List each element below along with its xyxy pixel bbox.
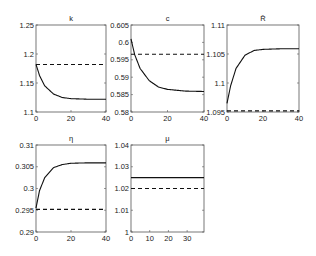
y-tick-label: 1.2 — [24, 50, 34, 59]
x-tick-label: 0 — [129, 234, 133, 243]
x-tick-label: 40 — [102, 114, 110, 123]
y-tick-label: 0.295 — [15, 206, 34, 215]
y-tick-label: 1.105 — [206, 50, 225, 59]
subplot-title: η — [69, 134, 73, 143]
x-tick-label: 0 — [225, 114, 229, 123]
y-tick-label: 0.29 — [19, 228, 34, 237]
y-tick-label: 0.585 — [110, 90, 129, 99]
x-tick-label: 20 — [164, 234, 172, 243]
subplot-1: c0.580.5850.590.5950.60.60502040 — [110, 14, 208, 123]
x-tick-label: 30 — [183, 234, 191, 243]
x-tick-label: 20 — [163, 114, 171, 123]
subplot-0: k1.11.151.21.2502040 — [19, 14, 110, 123]
x-tick-label: 0 — [34, 234, 38, 243]
y-tick-label: 0.58 — [114, 108, 129, 117]
y-tick-label: 1.02 — [114, 184, 129, 193]
subplot-3: η0.290.2950.30.3050.3102040 — [15, 134, 110, 243]
subplot-title: μ — [165, 134, 169, 143]
figure: k1.11.151.21.2502040c0.580.5850.590.5950… — [0, 0, 316, 256]
x-tick-label: 40 — [295, 114, 303, 123]
y-tick-label: 1.25 — [19, 21, 34, 30]
y-tick-label: 0.3 — [24, 184, 34, 193]
subplot-title: R̄ — [260, 14, 266, 23]
x-tick-label: 10 — [146, 234, 154, 243]
y-tick-label: 0.59 — [114, 73, 129, 82]
axes-frame — [36, 145, 106, 232]
subplot-title: c — [166, 14, 170, 23]
x-tick-label: 0 — [34, 114, 38, 123]
subplot-title: k — [69, 14, 73, 23]
y-tick-label: 0.31 — [19, 141, 34, 150]
x-tick-label: 20 — [259, 114, 267, 123]
y-tick-label: 1.1 — [215, 79, 225, 88]
y-tick-label: 0.595 — [110, 55, 129, 64]
x-tick-label: 0 — [129, 114, 133, 123]
y-tick-label: 1.01 — [114, 206, 129, 215]
y-tick-label: 1.15 — [19, 79, 34, 88]
subplot-4: μ11.011.021.031.040102030 — [114, 134, 204, 243]
y-tick-label: 1.04 — [114, 141, 129, 150]
y-tick-label: 1.11 — [211, 21, 225, 30]
y-tick-label: 0.305 — [15, 162, 34, 171]
y-tick-label: 1.1 — [24, 108, 34, 117]
axes-frame — [227, 25, 299, 112]
axes-frame — [131, 25, 204, 112]
subplot-2: R̄1.0951.11.1051.1102040 — [206, 14, 303, 123]
y-tick-label: 0.6 — [119, 38, 129, 47]
x-tick-label: 40 — [102, 234, 110, 243]
y-tick-label: 1.095 — [206, 108, 225, 117]
x-tick-label: 20 — [67, 114, 75, 123]
y-tick-label: 0.605 — [110, 21, 129, 30]
x-tick-label: 20 — [67, 234, 75, 243]
y-tick-label: 1.03 — [114, 162, 129, 171]
